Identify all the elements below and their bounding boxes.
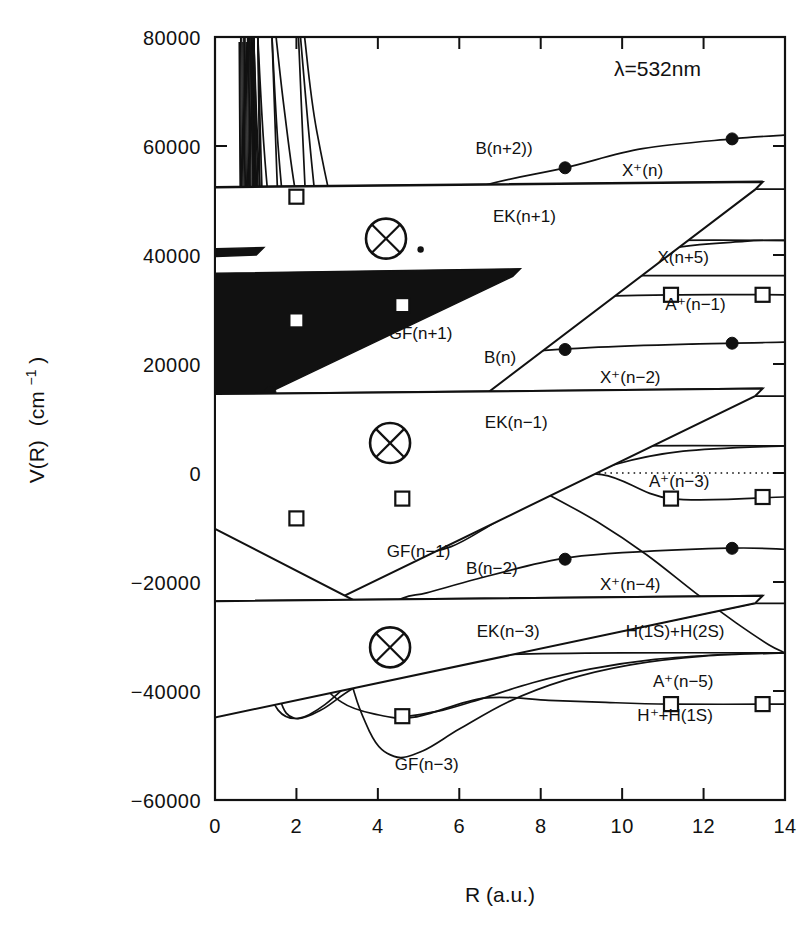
y-tick-label: 60000 — [143, 136, 201, 158]
curve-label: B(n) — [484, 348, 516, 367]
y-axis-title: V(R) (cm −1 ) — [17, 357, 48, 484]
curve-label: A⁺(n−1) — [665, 295, 726, 314]
figure-root: 02468101214 −60000−40000−200000200004000… — [0, 0, 809, 932]
curve-label: B(n+2)) — [475, 139, 532, 158]
y-tick-label: 40000 — [143, 245, 201, 267]
curve-label: X⁺(n−4) — [600, 575, 661, 594]
y-axis-title-unit: (cm — [25, 391, 48, 426]
wavelength-annotation: λ=532nm — [614, 57, 701, 80]
curve-label: X(n+5) — [657, 248, 709, 267]
y-tick-label: −40000 — [131, 681, 201, 703]
curve-label: X⁺(n−2) — [600, 368, 661, 387]
y-tick-label: 80000 — [143, 27, 201, 49]
marker-open-square — [289, 511, 303, 525]
y-axis-title-main: V(R) — [25, 440, 48, 483]
marker-open-square — [289, 313, 303, 327]
marker-open-square — [756, 288, 770, 302]
marker-filled-circle — [559, 553, 571, 565]
marker-filled-circle — [726, 337, 738, 349]
marker-filled-circle — [726, 542, 738, 554]
y-axis-title-close: ) — [25, 357, 48, 364]
y-axis-title-exponent: −1 — [23, 369, 39, 385]
curve-label: GF(n+1) — [389, 324, 453, 343]
marker-open-square — [395, 492, 409, 506]
y-tick-labels: −60000−40000−20000020000400006000080000 — [131, 27, 201, 812]
y-tick-label: 0 — [189, 463, 201, 485]
x-tick-labels: 02468101214 — [209, 815, 796, 837]
svg-text:V(R) (cm −1: V(R) (cm −1 ) — [17, 357, 48, 484]
curve-label: EK(n+1) — [493, 207, 556, 226]
x-tick-label: 4 — [372, 815, 384, 837]
potential-energy-curve-chart: 02468101214 −60000−40000−200000200004000… — [0, 0, 809, 932]
curve-label: EK(n−3) — [477, 622, 540, 641]
marker-open-square — [664, 492, 678, 506]
y-tick-label: 20000 — [143, 354, 201, 376]
curve-label: H⁺+H(1S) — [637, 706, 713, 725]
x-tick-label: 0 — [209, 815, 221, 837]
marker-open-square — [289, 190, 303, 204]
marker-small-dot — [417, 246, 423, 252]
curve-label: GF(n−1) — [387, 542, 451, 561]
curve-label: GF(n−3) — [395, 755, 459, 774]
x-tick-label: 12 — [692, 815, 715, 837]
curve-label: EK(n−1) — [485, 413, 548, 432]
y-tick-label: −60000 — [131, 790, 201, 812]
marker-open-square — [756, 697, 770, 711]
y-tick-label: −20000 — [131, 572, 201, 594]
curve-label: H(1S)+H(2S) — [626, 622, 725, 641]
curve-label: B(n−2) — [466, 559, 518, 578]
marker-filled-circle — [726, 133, 738, 145]
marker-filled-circle — [559, 344, 571, 356]
marker-filled-circle — [559, 162, 571, 174]
x-tick-label: 14 — [773, 815, 796, 837]
marker-open-square — [395, 709, 409, 723]
marker-open-square — [756, 490, 770, 504]
curve-label: A⁺(n−3) — [649, 472, 710, 491]
x-tick-label: 2 — [291, 815, 303, 837]
marker-open-square — [395, 298, 409, 312]
x-tick-label: 6 — [453, 815, 465, 837]
curve-label: A⁺(n−5) — [653, 672, 714, 691]
x-axis-title: R (a.u.) — [465, 883, 535, 906]
x-tick-label: 8 — [535, 815, 547, 837]
curve-label: X⁺(n) — [622, 161, 663, 180]
x-tick-label: 10 — [611, 815, 634, 837]
